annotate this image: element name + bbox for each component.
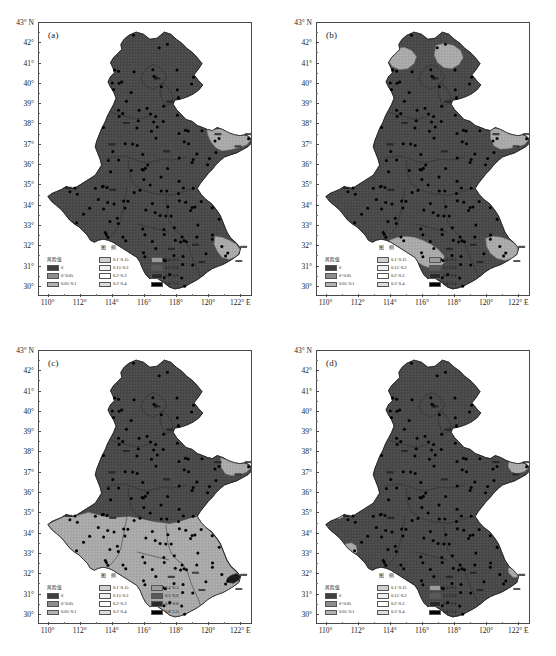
y-axis-tick-c-6 [38, 472, 41, 473]
y-axis-minor-tick-a [38, 113, 40, 114]
legend-range-d-c2-3: 0.3~0.4 [391, 610, 404, 614]
x-axis-tick-b-2 [390, 294, 391, 297]
y-axis-minor-tick-b [316, 32, 318, 33]
y-axis-tick-a-6 [38, 144, 41, 145]
y-axis-tick-d-6 [316, 472, 319, 473]
legend-row-c-c2-3: 0.3~0.4 [99, 609, 129, 616]
y-axis-minor-tick-b [316, 113, 318, 114]
x-axis-tick-a-0 [48, 294, 49, 297]
legend-value-label-a: 风险值 [47, 258, 77, 263]
x-axis-label-b-2: 114° [383, 298, 397, 307]
legend-range-c-c2-3: 0.3~0.4 [113, 610, 126, 614]
legend-value-label-b: 风险值 [325, 258, 355, 263]
y-axis-label-b-13: 30° [278, 281, 312, 290]
legend-col-right-b: 0.4~0.5 0.5~0.6 0.6~0.8 0.8~1.0 [429, 256, 456, 289]
legend-range-a-c3-1: 0.5~0.6 [165, 266, 178, 270]
y-axis-label-a-3: 40° [0, 78, 34, 87]
legend-row-b-c2-1: 0.15~0.2 [377, 264, 407, 271]
legend-swatch-d-c3-3 [429, 610, 441, 616]
x-axis-label-d-6: 122° E [508, 626, 529, 635]
legend-swatch-d-c3-1 [429, 593, 441, 599]
x-axis-tick-a-4 [176, 294, 177, 297]
y-axis-label-b-11: 32° [278, 241, 312, 250]
y-axis-label-c-4: 39° [0, 427, 34, 436]
legend-range-a-c1-1: 0~0.05 [61, 274, 73, 278]
legend-range-c-c1-2: 0.05~0.1 [61, 610, 77, 614]
y-axis-label-c-1: 42° [0, 366, 34, 375]
legend-row-d-c2-2: 0.2~0.3 [377, 601, 407, 608]
legend-col-value-b: 风险值 0 0~0.05 0.05~0.1 [325, 258, 355, 289]
x-axis-minor-tick-c [64, 622, 65, 624]
y-axis-minor-tick-a [38, 174, 40, 175]
y-axis-minor-tick-c [38, 583, 40, 584]
y-axis-minor-tick-c [38, 421, 40, 422]
x-axis-label-a-1: 112° [73, 298, 87, 307]
legend-row-b-c3-2: 0.6~0.8 [429, 273, 456, 280]
legend-range-a-c2-1: 0.15~0.2 [113, 266, 129, 270]
figure-root: 图 例 风险值 0 0~0.05 0.05~0.1 0.1~0.15 [0, 0, 556, 656]
y-axis-tick-d-13 [316, 614, 319, 615]
legend-range-a-c2-3: 0.3~0.4 [113, 282, 126, 286]
x-axis-tick-d-4 [454, 622, 455, 625]
x-axis-label-b-4: 118° [447, 298, 461, 307]
y-axis-label-d-12: 31° [278, 589, 312, 598]
legend-row-d-c3-0: 0.4~0.5 [429, 584, 456, 591]
y-axis-label-c-6: 37° [0, 467, 34, 476]
legend-value-label-c: 风险值 [47, 586, 77, 591]
y-axis-label-d-10: 33° [278, 548, 312, 557]
x-axis-tick-a-1 [80, 294, 81, 297]
legend-swatch-d-c2-2 [377, 601, 389, 607]
y-axis-minor-tick-c [38, 401, 40, 402]
legend-range-c-c2-0: 0.1~0.15 [113, 586, 129, 590]
legend-range-c-c3-3: 0.8~1.0 [165, 610, 178, 614]
y-axis-minor-tick-a [38, 276, 40, 277]
legend-swatch-c-c2-2 [99, 601, 111, 607]
y-axis-tick-d-3 [316, 411, 319, 412]
x-axis-label-a-5: 120° [201, 298, 215, 307]
y-axis-tick-b-0 [316, 22, 319, 23]
x-axis-tick-b-0 [326, 294, 327, 297]
legend-swatch-b-c2-0 [377, 257, 389, 263]
y-axis-minor-tick-d [316, 401, 318, 402]
x-axis-minor-tick-a [192, 294, 193, 296]
legend-header-c: 图 例 [101, 571, 118, 578]
y-axis-minor-tick-b [316, 134, 318, 135]
legend-col-mid-b: 0.1~0.15 0.15~0.2 0.2~0.3 0.3~0.4 [377, 256, 407, 289]
y-axis-tick-b-1 [316, 42, 319, 43]
legend-row-a-c3-3: 0.8~1.0 [151, 281, 178, 288]
x-axis-minor-tick-a [224, 294, 225, 296]
map-panel-d: 图 例 风险值 0 0~0.05 0.05~0.1 0.1~0.15 [278, 328, 556, 656]
legend-row-b-c3-3: 0.8~1.0 [429, 281, 456, 288]
y-axis-tick-c-2 [38, 391, 41, 392]
y-axis-minor-tick-c [38, 482, 40, 483]
y-axis-tick-a-2 [38, 63, 41, 64]
legend-swatch-d-c2-3 [377, 610, 389, 616]
x-axis-minor-tick-b [374, 294, 375, 296]
y-axis-label-a-10: 33° [0, 220, 34, 229]
y-axis-label-c-0: 43° N [0, 346, 34, 355]
y-axis-label-d-13: 30° [278, 609, 312, 618]
legend-row-c-c2-0: 0.1~0.15 [99, 584, 129, 591]
y-axis-label-d-4: 39° [278, 427, 312, 436]
legend-col-value-d: 风险值 0 0~0.05 0.05~0.1 [325, 586, 355, 617]
y-axis-label-a-12: 31° [0, 261, 34, 270]
y-axis-tick-d-5 [316, 451, 319, 452]
legend-swatch-a-c3-0 [151, 257, 163, 263]
legend-range-b-c1-2: 0.05~0.1 [339, 282, 355, 286]
legend-range-a-c2-2: 0.2~0.3 [113, 274, 126, 278]
y-axis-tick-b-5 [316, 123, 319, 124]
x-axis-label-c-5: 120° [201, 626, 215, 635]
y-axis-tick-d-4 [316, 431, 319, 432]
x-axis-tick-c-5 [208, 622, 209, 625]
legend-swatch-a-c1-1 [47, 273, 59, 279]
legend-row-c-c2-2: 0.2~0.3 [99, 601, 129, 608]
y-axis-tick-d-12 [316, 594, 319, 595]
legend-range-a-c1-2: 0.05~0.1 [61, 282, 77, 286]
legend-swatch-d-c1-0 [325, 593, 337, 599]
map-panel-a: 图 例 风险值 0 0~0.05 0.05~0.1 0.1~0.15 [0, 0, 278, 328]
legend-swatch-c-c1-1 [47, 601, 59, 607]
legend-range-b-c3-2: 0.6~0.8 [443, 274, 456, 278]
panel-label-a: (a) [48, 30, 59, 40]
y-axis-label-b-2: 41° [278, 58, 312, 67]
y-axis-tick-b-6 [316, 144, 319, 145]
